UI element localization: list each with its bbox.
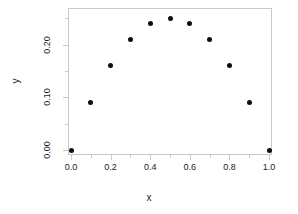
- data-point: [148, 21, 153, 26]
- x-axis-tick-label: 0.0: [65, 162, 78, 172]
- data-point: [88, 100, 93, 105]
- x-axis-tick: [190, 155, 191, 160]
- x-axis-tick: [130, 155, 131, 158]
- data-point: [227, 63, 232, 68]
- data-points-layer: [68, 8, 272, 155]
- y-axis-tick-label: 0.00: [42, 137, 52, 163]
- y-axis-tick: [63, 150, 68, 151]
- data-point: [267, 148, 272, 153]
- x-axis-tick: [170, 155, 171, 158]
- x-axis-tick: [150, 155, 151, 160]
- x-axis-tick: [210, 155, 211, 158]
- data-point: [69, 148, 74, 153]
- data-point: [168, 16, 173, 21]
- scatter-plot-figure: 0.00.20.40.60.81.00.000.100.20 x y: [0, 0, 298, 214]
- data-point: [247, 100, 252, 105]
- y-axis-tick-label: 0.20: [42, 32, 52, 58]
- x-axis-title: x: [0, 192, 298, 203]
- x-axis-tick: [269, 155, 270, 160]
- x-axis-tick: [91, 155, 92, 158]
- data-point: [128, 37, 133, 42]
- x-axis-tick-label: 0.8: [223, 162, 236, 172]
- y-axis-title: y: [10, 74, 21, 88]
- x-axis-tick-label: 0.6: [184, 162, 197, 172]
- x-axis-tick: [71, 155, 72, 160]
- x-axis-tick-label: 0.4: [144, 162, 157, 172]
- x-axis-tick: [111, 155, 112, 160]
- y-axis-tick: [63, 45, 68, 46]
- x-axis-tick-label: 1.0: [263, 162, 276, 172]
- x-axis-tick: [249, 155, 250, 158]
- x-axis-tick: [229, 155, 230, 160]
- y-axis-tick: [65, 124, 68, 125]
- y-axis-tick: [65, 71, 68, 72]
- data-point: [187, 21, 192, 26]
- y-axis-tick-label: 0.10: [42, 84, 52, 110]
- x-axis-tick-label: 0.2: [104, 162, 117, 172]
- y-axis-tick: [63, 97, 68, 98]
- y-axis-tick: [65, 18, 68, 19]
- data-point: [108, 63, 113, 68]
- data-point: [207, 37, 212, 42]
